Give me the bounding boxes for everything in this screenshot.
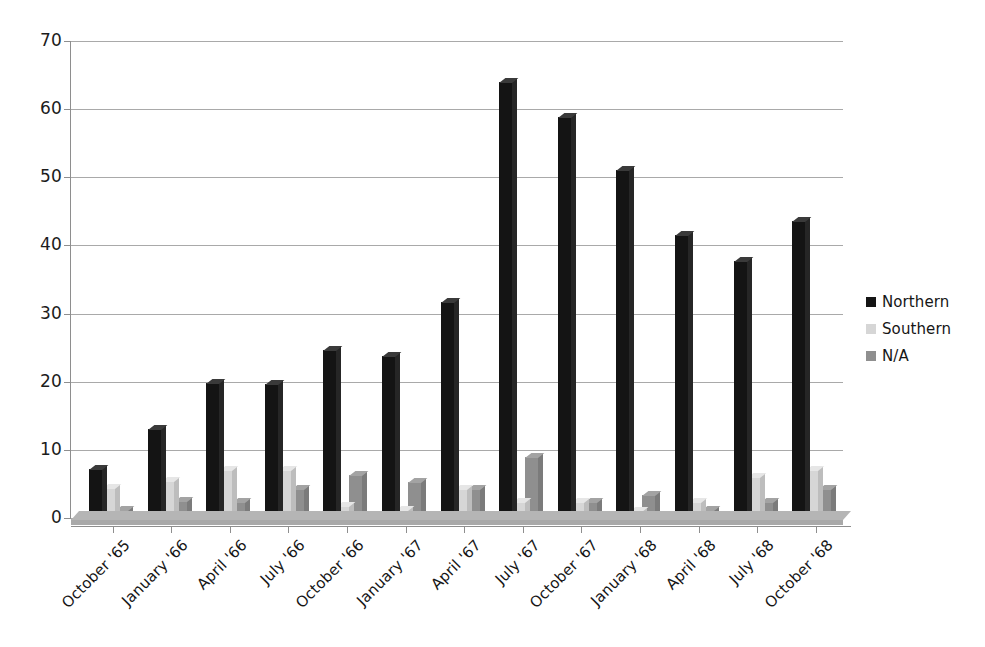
legend-swatch-icon <box>866 297 876 307</box>
y-axis-tick <box>64 450 71 451</box>
bar-northern <box>734 261 747 518</box>
bar-group <box>206 41 245 518</box>
x-axis-tick <box>464 526 465 533</box>
x-axis-tick-label: April '67 <box>427 536 484 593</box>
bar-northern <box>265 384 278 518</box>
bar-group <box>265 41 304 518</box>
bar-group <box>89 41 128 518</box>
bar-front <box>616 170 629 518</box>
bar-front <box>675 235 688 518</box>
x-axis-tick <box>288 526 289 533</box>
y-axis-tick <box>64 314 71 315</box>
bar-northern <box>792 221 805 518</box>
legend-swatch-icon <box>866 324 876 334</box>
x-axis-tick-label: April '68 <box>662 536 719 593</box>
bar-side <box>629 167 634 518</box>
bar-group <box>675 41 714 518</box>
x-axis-tick <box>640 526 641 533</box>
bar-side <box>512 78 517 518</box>
bar-side <box>454 298 459 518</box>
y-axis-tick-label: 30 <box>40 303 62 323</box>
bar-front <box>441 302 454 518</box>
y-axis-tick <box>64 177 71 178</box>
x-axis-tick <box>523 526 524 533</box>
chart-floor-top <box>71 511 851 520</box>
bar-northern <box>558 117 571 518</box>
bar-front <box>558 117 571 518</box>
bar-front <box>499 82 512 518</box>
bar-northern <box>148 429 161 518</box>
bar-side <box>538 453 543 518</box>
bar-front <box>148 429 161 518</box>
y-axis-tick-label: 60 <box>40 98 62 118</box>
bar-side <box>805 217 810 518</box>
x-axis-tick <box>699 526 700 533</box>
bar-side <box>161 426 166 518</box>
x-axis-tick <box>171 526 172 533</box>
bar-group <box>558 41 597 518</box>
y-axis-tick <box>64 382 71 383</box>
bar-side <box>219 379 224 518</box>
chart-legend: NorthernSouthernN/A <box>866 288 951 369</box>
legend-item-label: N/A <box>882 347 909 365</box>
legend-item-label: Southern <box>882 320 951 338</box>
bar-northern <box>382 356 395 518</box>
y-axis-tick-label: 40 <box>40 234 62 254</box>
bar-side <box>688 231 693 518</box>
bar-front <box>792 221 805 518</box>
y-axis-tick <box>64 41 71 42</box>
bar-group <box>441 41 480 518</box>
legend-item[interactable]: N/A <box>866 342 951 369</box>
bar-group <box>323 41 362 518</box>
x-axis-line <box>71 526 851 527</box>
y-axis-tick-label: 50 <box>40 166 62 186</box>
bar-side <box>336 346 341 518</box>
legend-swatch-icon <box>866 351 876 361</box>
y-axis-tick <box>64 109 71 110</box>
bar-group <box>734 41 773 518</box>
bar-group <box>792 41 831 518</box>
x-axis-tick-label: July '68 <box>726 536 778 588</box>
y-axis-tick-label: 70 <box>40 30 62 50</box>
bar-group <box>382 41 421 518</box>
bar-northern <box>206 383 219 518</box>
bar-side <box>747 257 752 518</box>
bar-front <box>734 261 747 518</box>
bar-front <box>323 350 336 518</box>
bar-group <box>616 41 655 518</box>
bar-northern <box>499 82 512 518</box>
bar-group <box>148 41 187 518</box>
y-axis-tick <box>64 245 71 246</box>
bar-side <box>395 352 400 518</box>
bar-side <box>278 381 283 518</box>
bar-side <box>571 113 576 518</box>
x-axis-tick-label: July '66 <box>257 536 309 588</box>
bar-chart: NorthernSouthernN/A 010203040506070Octob… <box>0 0 985 647</box>
legend-item[interactable]: Northern <box>866 288 951 315</box>
y-axis-tick-label: 0 <box>51 507 62 527</box>
chart-floor <box>71 511 851 520</box>
x-axis-tick <box>816 526 817 533</box>
x-axis-tick <box>581 526 582 533</box>
bar-northern <box>323 350 336 518</box>
y-axis-tick <box>64 518 71 519</box>
bar-front <box>265 384 278 518</box>
bar-front <box>206 383 219 518</box>
x-axis-tick-label: April '66 <box>193 536 250 593</box>
y-axis-tick-label: 10 <box>40 439 62 459</box>
x-axis-tick <box>347 526 348 533</box>
x-axis-tick <box>406 526 407 533</box>
plot-area <box>71 41 843 518</box>
x-axis-tick-label: July '67 <box>491 536 543 588</box>
x-axis-tick <box>757 526 758 533</box>
x-axis-tick <box>113 526 114 533</box>
bar-group <box>499 41 538 518</box>
legend-item[interactable]: Southern <box>866 315 951 342</box>
bar-northern <box>616 170 629 518</box>
x-axis-tick <box>230 526 231 533</box>
bar-northern <box>675 235 688 518</box>
bar-northern <box>441 302 454 518</box>
bar-front <box>382 356 395 518</box>
legend-item-label: Northern <box>882 293 949 311</box>
y-axis-tick-label: 20 <box>40 371 62 391</box>
